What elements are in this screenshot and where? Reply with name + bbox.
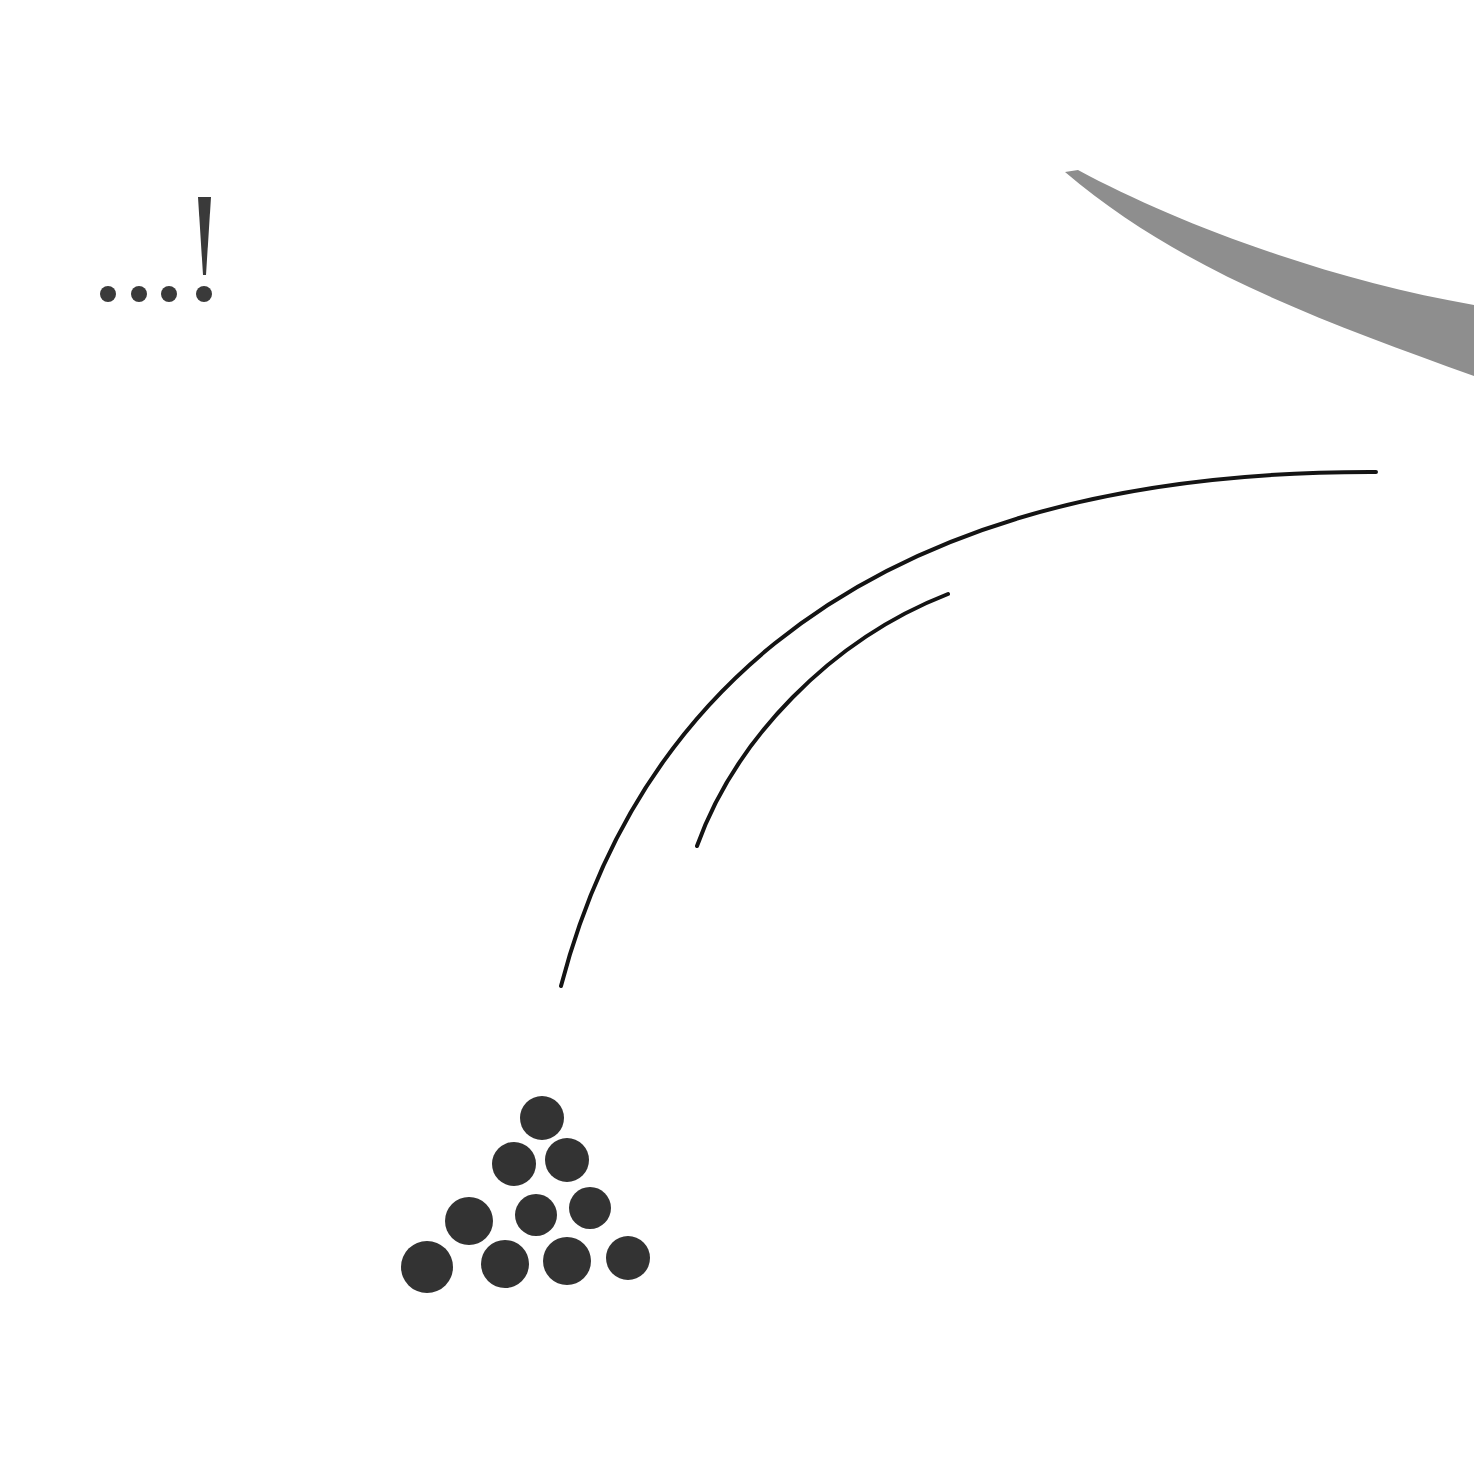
ball	[520, 1096, 564, 1140]
ball	[543, 1237, 591, 1285]
ball	[401, 1241, 453, 1293]
ball	[492, 1142, 536, 1186]
billiard-ball-rack	[401, 1096, 650, 1293]
ball	[481, 1240, 529, 1288]
motion-arc-outer	[561, 472, 1376, 986]
illustration-canvas: ...!	[0, 0, 1474, 1479]
ellipsis-exclamation-icon	[100, 197, 212, 302]
ball	[569, 1187, 611, 1229]
motion-arc-inner	[697, 594, 948, 846]
ball	[545, 1138, 589, 1182]
cue-stick-stroke	[1065, 170, 1474, 376]
ball	[606, 1236, 650, 1280]
illustration-svg	[0, 0, 1474, 1479]
ball	[515, 1194, 557, 1236]
ball	[445, 1197, 493, 1245]
